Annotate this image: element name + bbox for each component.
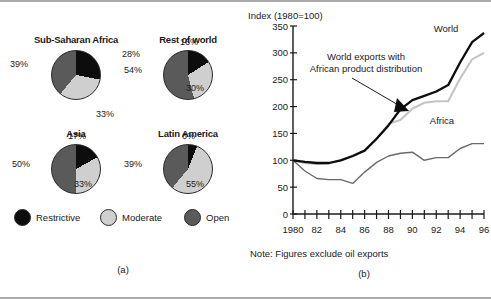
- x-tick-label: 82: [312, 224, 323, 235]
- annotation-line-2: African product distribution: [310, 63, 422, 74]
- y-axis-tick-labels: 050100150200250300350: [272, 21, 288, 220]
- pie-legend: Restrictive Moderate Open: [8, 209, 246, 231]
- panel-b-caption: (b): [246, 268, 482, 279]
- pie-title: Sub-Saharan Africa: [16, 34, 136, 45]
- figure-container: Sub-Saharan Africa 28% 33% 39% Rest of w…: [0, 0, 491, 299]
- y-tick-label: 50: [277, 182, 288, 193]
- x-tick-label: 88: [383, 224, 394, 235]
- pie-chart-asia: Asia 17% 33% 50%: [16, 128, 136, 205]
- panel-b-line-chart: Index (1980=100) 050100150200250300350 1…: [246, 2, 491, 299]
- x-tick-label: 90: [407, 224, 418, 235]
- pie-label-open: 39%: [124, 159, 142, 169]
- pie-label-open: 39%: [10, 59, 28, 69]
- pie-wrap: 6% 55% 39%: [128, 141, 248, 205]
- x-tick-label: 1980: [282, 224, 303, 235]
- y-tick-label: 300: [272, 47, 288, 58]
- pie-chart-sub-saharan-africa: Sub-Saharan Africa 28% 33% 39%: [16, 34, 136, 111]
- x-tick-label: 94: [455, 224, 466, 235]
- x-axis-tick-labels: 19808284868890929496: [282, 224, 489, 235]
- legend-swatch-open-icon: [184, 209, 201, 226]
- line-chart-svg: 050100150200250300350 198082848688909294…: [246, 20, 491, 242]
- pie-label-open: 54%: [124, 65, 142, 75]
- pie-label-restrictive: 16%: [180, 37, 198, 47]
- series-label-world: World: [434, 23, 459, 34]
- legend-label: Open: [206, 212, 229, 223]
- pie-label-moderate: 33%: [96, 109, 114, 119]
- y-tick-label: 350: [272, 21, 288, 32]
- legend-swatch-moderate-icon: [100, 209, 117, 226]
- y-tick-label: 0: [283, 209, 288, 220]
- legend-item-open: Open: [184, 209, 229, 226]
- annotation-line-1: World exports with: [327, 51, 405, 62]
- chart-note: Note: Figures exclude oil exports: [250, 248, 388, 259]
- annotation-leader-line: [352, 78, 400, 106]
- pie-label-restrictive: 6%: [182, 131, 195, 141]
- pie-wrap: 28% 33% 39%: [16, 47, 136, 111]
- legend-label: Restrictive: [36, 212, 80, 223]
- legend-label: Moderate: [122, 212, 162, 223]
- x-tick-label: 92: [431, 224, 442, 235]
- panel-a-caption: (a): [0, 264, 246, 275]
- legend-swatch-restrictive-icon: [14, 209, 31, 226]
- legend-item-restrictive: Restrictive: [14, 209, 80, 226]
- pie-label-restrictive: 17%: [68, 131, 86, 141]
- pie-wrap: 16% 30% 54%: [128, 47, 248, 111]
- pie-chart-latin-america: Latin America 6% 55% 39%: [128, 128, 248, 205]
- pie-label-open: 50%: [12, 159, 30, 169]
- pie-label-moderate: 55%: [186, 179, 204, 189]
- panel-a-pie-charts: Sub-Saharan Africa 28% 33% 39% Rest of w…: [0, 6, 246, 296]
- pie-chart-rest-of-world: Rest of world 16% 30% 54%: [128, 34, 248, 111]
- y-tick-label: 250: [272, 74, 288, 85]
- y-tick-label: 100: [272, 155, 288, 166]
- pie-label-moderate: 30%: [186, 83, 204, 93]
- x-tick-label: 86: [359, 224, 370, 235]
- pie-graphic: [51, 50, 101, 100]
- pie-wrap: 17% 33% 50%: [16, 141, 136, 205]
- x-tick-label: 84: [335, 224, 346, 235]
- x-tick-label: 96: [479, 224, 490, 235]
- series-label-africa: Africa: [430, 115, 455, 126]
- pie-label-moderate: 33%: [74, 179, 92, 189]
- legend-item-moderate: Moderate: [100, 209, 162, 226]
- y-tick-label: 200: [272, 101, 288, 112]
- y-tick-label: 150: [272, 128, 288, 139]
